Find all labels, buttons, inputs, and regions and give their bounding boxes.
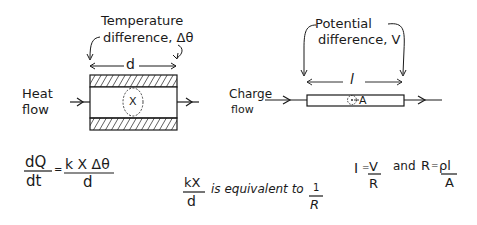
eq-equiv-lhs-num: kX (184, 176, 200, 189)
eq-heat-equals: = (54, 165, 62, 175)
eq-ohm-a-den: A (445, 176, 454, 189)
eq-ohm-rho-l: ρl (439, 159, 451, 172)
eq-heat-rhs-num: k X Δθ (65, 157, 110, 171)
eq-ohm-r-den: R (369, 177, 378, 190)
charge-area-label: A (359, 95, 367, 106)
eq-equiv-lhs-den: d (187, 194, 196, 208)
heat-flow-label-line2: flow (22, 103, 49, 116)
eq-heat-rhs-den: d (83, 175, 93, 190)
resistor-wire (307, 95, 404, 106)
heat-title-line1: Temperature (101, 14, 183, 27)
eq-heat-lhs-num: dQ (25, 155, 46, 170)
charge-bracket-left (304, 25, 316, 74)
eq-ohm-r: R (421, 159, 430, 172)
charge-length-label: l (350, 72, 354, 86)
charge-flow-label-line1: Charge (229, 88, 272, 100)
heat-length-label: d (126, 57, 135, 71)
eq-equiv-rhs-den: R (310, 198, 319, 211)
eq-ohm-and: and (393, 160, 416, 172)
heat-flow-arrow-out (177, 98, 199, 106)
heat-title-line2: difference, Δθ (103, 31, 193, 44)
eq-ohm-i: I (354, 161, 358, 175)
eq-equiv-text: is equivalent to (211, 183, 304, 195)
heat-diagram (70, 37, 199, 130)
eq-ohm-v: V (369, 160, 378, 173)
length-l-arrow (307, 79, 402, 85)
eq-heat-lhs-den: dt (26, 174, 41, 189)
eq-ohm-eq2: = (431, 161, 439, 170)
heat-flow-arrow-in (70, 98, 90, 106)
heat-flow-label-line1: Heat (22, 87, 53, 100)
charge-title-line2: difference, V (318, 33, 400, 46)
charge-flow-label-line2: flow (231, 104, 254, 115)
heat-bracket-left (90, 37, 100, 58)
heat-area-label: X (129, 96, 137, 107)
eq-equiv-rhs-num: 1 (313, 183, 319, 193)
wire (265, 95, 442, 106)
charge-title-line1: Potential (315, 17, 372, 30)
